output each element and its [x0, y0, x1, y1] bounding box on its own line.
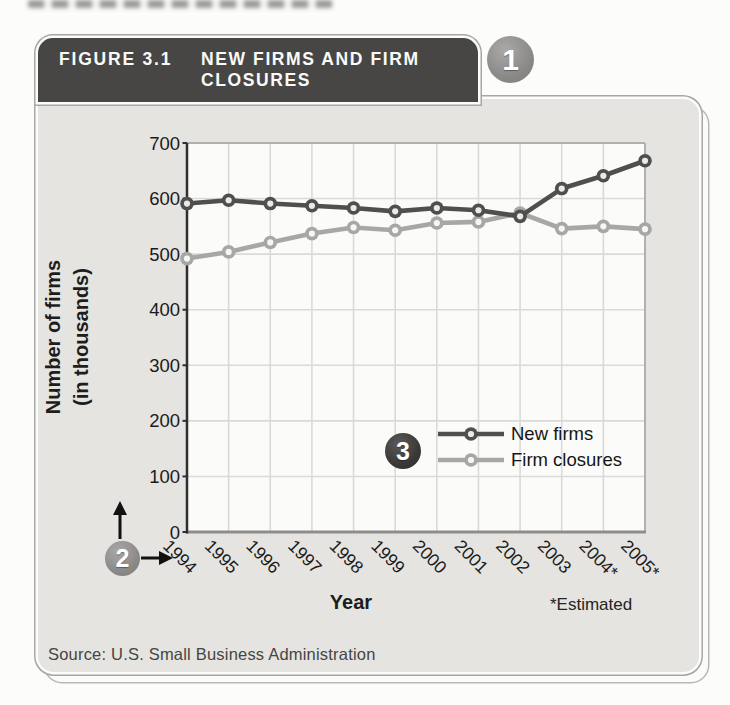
y-tick-label: 300 [149, 355, 180, 376]
data-point-center [642, 158, 648, 164]
data-point-center [475, 207, 481, 213]
data-point-center [475, 219, 481, 225]
data-point-center [559, 185, 565, 191]
x-tick-label: 2001 [451, 536, 493, 578]
line-chart: 0100200300400500600700199419951996199719… [38, 99, 699, 672]
x-tick-label: 2005* [617, 536, 664, 583]
data-point-center [226, 197, 232, 203]
x-tick-label: 2003 [534, 536, 576, 578]
callout-badge-1: 1 [487, 36, 534, 83]
y-tick-label: 500 [149, 244, 180, 265]
data-point-center [184, 255, 190, 261]
legend-row: New firms [438, 423, 622, 445]
y-tick-label: 400 [149, 299, 180, 320]
callout-badge-3: 3 [385, 433, 421, 469]
x-tick-label: 1999 [367, 536, 409, 578]
x-tick-label: 2000 [409, 536, 451, 578]
data-point-center [226, 249, 232, 255]
x-tick-label: 1998 [326, 536, 368, 578]
y-tick-label: 100 [149, 466, 180, 487]
data-point-center [309, 203, 315, 209]
x-tick-label: 1996 [242, 536, 284, 578]
data-point-center [184, 200, 190, 206]
x-axis-title: Year [330, 591, 372, 613]
data-point-center [517, 213, 523, 219]
data-point-center [434, 205, 440, 211]
data-point-center [642, 226, 648, 232]
figure-title-line2: CLOSURES [201, 70, 420, 91]
data-point-center [267, 239, 273, 245]
legend-line-icon [438, 452, 504, 468]
x-tick-label: 2004* [576, 536, 623, 583]
data-point-center [309, 230, 315, 236]
data-point-center [559, 225, 565, 231]
data-point-center [600, 173, 606, 179]
legend-label: New firms [511, 423, 593, 445]
data-point-center [392, 208, 398, 214]
x-tick-label: 1997 [284, 536, 326, 578]
figure-title: NEW FIRMS AND FIRM CLOSURES [201, 49, 420, 91]
legend-line-icon [438, 426, 504, 442]
figure-title-line1: NEW FIRMS AND FIRM [201, 49, 420, 70]
data-point-center [350, 205, 356, 211]
figure-header: FIGURE 3.1 NEW FIRMS AND FIRM CLOSURES [38, 38, 478, 102]
x-tick-label: 2002 [492, 536, 534, 578]
legend-row: Firm closures [438, 449, 622, 471]
x-tick-label: 1995 [201, 536, 243, 578]
data-point-center [350, 224, 356, 230]
legend-label: Firm closures [511, 449, 622, 471]
data-point-center [434, 220, 440, 226]
data-point-center [267, 200, 273, 206]
right-arrow-icon [141, 549, 173, 567]
figure-number: FIGURE 3.1 [59, 49, 183, 70]
y-tick-label: 200 [149, 410, 180, 431]
y-axis-title-line1: Number of firms [42, 260, 64, 414]
y-tick-label: 700 [149, 133, 180, 154]
cropped-text-artifact [28, 0, 333, 8]
chart-legend: New firmsFirm closures [438, 423, 622, 475]
tab-card-join [39, 102, 476, 110]
callout-badge-2: 2 [105, 541, 140, 576]
data-point-center [392, 227, 398, 233]
y-tick-label: 600 [149, 188, 180, 209]
estimated-note: *Estimated [550, 595, 632, 614]
data-point-center [600, 223, 606, 229]
plot-generated: 0100200300400500600700199419951996199719… [149, 133, 664, 583]
y-axis-title-line2: (in thousands) [70, 268, 92, 406]
source-note: Source: U.S. Small Business Administrati… [48, 645, 376, 664]
up-arrow-icon [112, 501, 128, 539]
